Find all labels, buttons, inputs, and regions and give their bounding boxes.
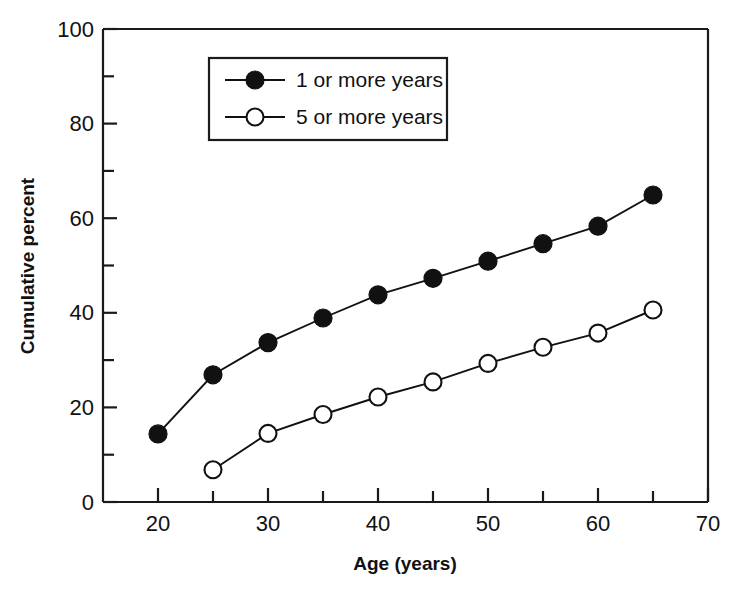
line-chart: 0 20 40 60 80 100 20 30 40 50 6 <box>0 0 730 601</box>
data-point-filled-circle <box>149 425 167 443</box>
y-axis-ticks <box>103 29 117 502</box>
y-tick-label: 100 <box>57 17 94 42</box>
y-axis-tick-labels: 0 20 40 60 80 100 <box>57 17 94 515</box>
x-axis-tick-labels: 20 30 40 50 60 70 <box>146 511 720 536</box>
y-tick-label: 40 <box>70 300 94 325</box>
filled-circle-icon <box>246 71 264 89</box>
y-tick-label: 80 <box>70 111 94 136</box>
x-tick-label: 50 <box>476 511 500 536</box>
x-tick-label: 30 <box>256 511 280 536</box>
y-axis-title: Cumulative percent <box>17 177 38 354</box>
data-point-open-circle <box>480 355 497 372</box>
legend-entry-1[interactable]: 1 or more years <box>225 68 443 91</box>
x-tick-label: 70 <box>696 511 720 536</box>
x-tick-label: 20 <box>146 511 170 536</box>
open-circle-icon <box>247 109 264 126</box>
series-2 <box>205 302 662 479</box>
data-point-filled-circle <box>204 366 222 384</box>
data-point-filled-circle <box>424 269 442 287</box>
data-point-filled-circle <box>589 217 607 235</box>
legend-label: 5 or more years <box>296 105 443 128</box>
legend-label: 1 or more years <box>296 68 443 91</box>
chart-figure: 0 20 40 60 80 100 20 30 40 50 6 <box>0 0 730 601</box>
legend-entry-2[interactable]: 5 or more years <box>225 105 443 128</box>
data-point-open-circle <box>205 461 222 478</box>
data-point-filled-circle <box>534 235 552 253</box>
data-point-open-circle <box>315 406 332 423</box>
y-tick-label: 20 <box>70 395 94 420</box>
data-point-filled-circle <box>644 186 662 204</box>
chart-legend: 1 or more years 5 or more years <box>209 58 447 140</box>
x-axis-ticks <box>158 488 708 502</box>
data-point-open-circle <box>590 325 607 342</box>
y-tick-label: 0 <box>82 490 94 515</box>
series-line <box>158 195 653 434</box>
series-1 <box>149 186 662 443</box>
data-series-layer <box>149 186 662 478</box>
data-point-filled-circle <box>259 334 277 352</box>
data-point-open-circle <box>535 339 552 356</box>
data-point-open-circle <box>645 302 662 319</box>
data-point-filled-circle <box>314 309 332 327</box>
data-point-filled-circle <box>369 286 387 304</box>
data-point-filled-circle <box>479 252 497 270</box>
data-point-open-circle <box>260 425 277 442</box>
x-tick-label: 40 <box>366 511 390 536</box>
x-tick-label: 60 <box>586 511 610 536</box>
data-point-open-circle <box>425 373 442 390</box>
y-tick-label: 60 <box>70 206 94 231</box>
data-point-open-circle <box>370 389 387 406</box>
x-axis-title: Age (years) <box>353 553 457 574</box>
